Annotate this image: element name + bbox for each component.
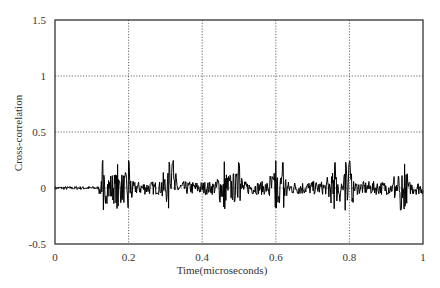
cross-correlation-trace — [55, 160, 423, 210]
cross-correlation-chart: 00.20.40.60.81 -0.500.511.5 Time(microse… — [0, 0, 440, 288]
y-tick-label: 0.5 — [32, 126, 46, 138]
x-tick-label: 0.4 — [195, 251, 209, 263]
x-tick-label: 0 — [52, 251, 58, 263]
y-axis-label: Cross-correlation — [12, 94, 24, 171]
x-tick-label: 0.6 — [269, 251, 283, 263]
y-tick-label: -0.5 — [29, 238, 47, 250]
x-tick-label: 0.2 — [122, 251, 136, 263]
y-tick-label: 1.5 — [32, 14, 46, 26]
y-tick-label: 1 — [41, 70, 47, 82]
x-axis-ticks: 00.20.40.60.81 — [52, 251, 426, 263]
x-tick-label: 1 — [420, 251, 426, 263]
x-axis-label: Time(microseconds) — [177, 264, 268, 277]
signal-line — [55, 160, 423, 210]
y-tick-label: 0 — [41, 182, 47, 194]
grid-lines — [55, 20, 423, 244]
plot-frame — [55, 20, 423, 244]
y-axis-ticks: -0.500.511.5 — [29, 14, 47, 250]
x-tick-label: 0.8 — [343, 251, 357, 263]
